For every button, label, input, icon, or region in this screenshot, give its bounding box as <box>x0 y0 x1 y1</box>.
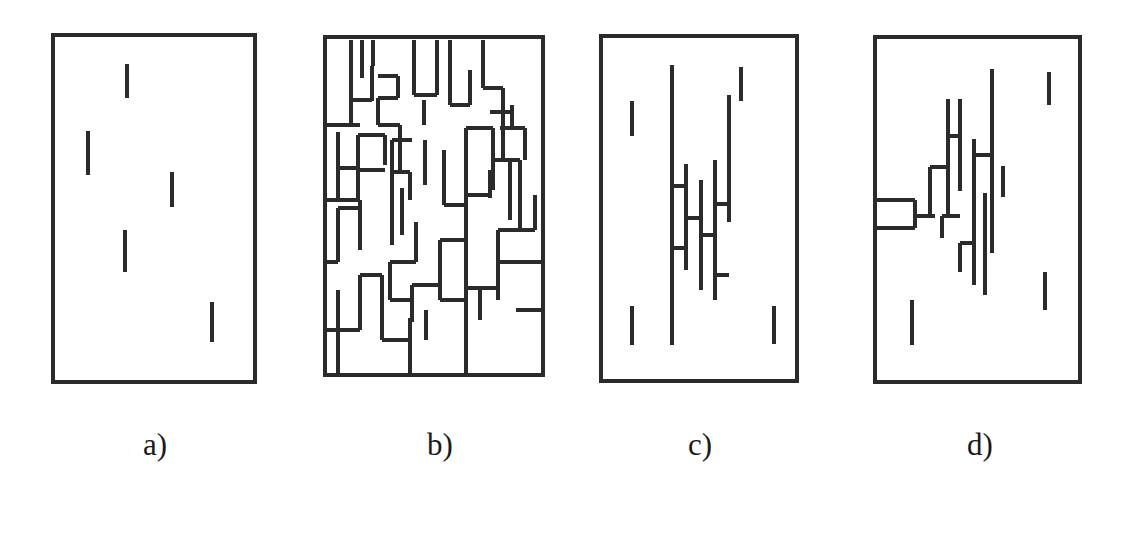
panel-c-caption: c) <box>640 429 760 460</box>
panels-canvas <box>0 0 1132 544</box>
panel-b <box>325 37 543 375</box>
panel-a-caption: a) <box>95 429 215 460</box>
panel-c <box>601 36 797 381</box>
panel-a-border <box>53 35 255 382</box>
panel-b-caption: b) <box>380 429 500 460</box>
panel-d-caption: d) <box>920 429 1040 460</box>
figure-root: a)b)c)d) <box>0 0 1132 544</box>
panel-a <box>53 35 255 382</box>
panel-d <box>875 37 1080 382</box>
